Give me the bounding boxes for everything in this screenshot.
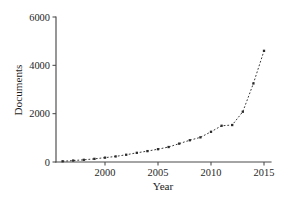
x-tick-label-2005: 2005 (148, 167, 169, 178)
data-point-2010 (210, 131, 212, 133)
data-point-2001 (114, 155, 116, 157)
data-point-2011 (220, 125, 222, 127)
x-tick-label-2010: 2010 (201, 167, 222, 178)
y-tick-label-2000: 2000 (29, 108, 50, 119)
data-point-2004 (146, 150, 148, 152)
data-series-group (61, 50, 265, 163)
data-point-2009 (199, 136, 201, 138)
y-tick-label-4000: 4000 (29, 60, 50, 71)
y-tick-label-0: 0 (45, 157, 50, 168)
x-axis-tick-labels: 2000200520102015 (95, 167, 275, 178)
x-axis-title: Year (153, 180, 174, 192)
data-point-2002 (125, 154, 127, 156)
data-point-1998 (83, 159, 85, 161)
chart-figure: 0200040006000 Documents 2000200520102015… (0, 0, 292, 197)
series-line-documents (63, 51, 264, 161)
y-axis-tick-labels: 0200040006000 (29, 12, 50, 168)
data-point-2003 (136, 152, 138, 154)
data-point-1999 (93, 158, 95, 160)
series-markers-documents (61, 50, 265, 163)
y-axis: 0200040006000 Documents (12, 12, 56, 168)
x-axis: 2000200520102015 Year (56, 162, 274, 192)
data-point-2006 (167, 146, 169, 148)
data-point-2007 (178, 142, 180, 144)
data-point-1996 (61, 160, 63, 162)
data-point-2005 (157, 148, 159, 150)
data-point-1997 (72, 159, 74, 161)
documents-per-year-line-chart: 0200040006000 Documents 2000200520102015… (0, 0, 292, 197)
y-tick-label-6000: 6000 (29, 12, 50, 23)
x-tick-label-2015: 2015 (254, 167, 275, 178)
data-point-2013 (242, 111, 244, 113)
y-axis-title: Documents (12, 65, 24, 116)
data-point-2008 (189, 139, 191, 141)
data-point-2014 (252, 82, 254, 84)
data-point-2015 (263, 50, 265, 52)
x-tick-label-2000: 2000 (95, 167, 116, 178)
data-point-2012 (231, 124, 233, 126)
data-point-2000 (104, 157, 106, 159)
